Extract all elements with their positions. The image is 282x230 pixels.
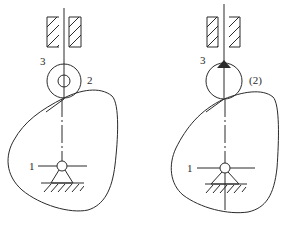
cam-edge-line [46, 99, 64, 112]
label-cam: 1 [187, 162, 193, 174]
label-follower: 3 [40, 55, 46, 67]
label-follower: 3 [200, 54, 206, 66]
guide-left [47, 15, 59, 53]
guide-right [229, 16, 240, 47]
label-roller: 2 [87, 74, 93, 86]
ground-hatch [206, 185, 246, 193]
guide-right [69, 15, 81, 47]
right-figure: 3 (2) 1 [171, 4, 278, 213]
label-roller: (2) [249, 74, 262, 87]
cam-pivot [220, 163, 230, 173]
cam-profile [8, 90, 118, 211]
guide-left [207, 16, 218, 52]
cam-mechanisms-diagram: 3 2 1 [0, 0, 282, 230]
pivot-support [51, 170, 73, 183]
cam-pivot [57, 161, 67, 171]
cam-edge-line [206, 99, 224, 112]
left-figure: 3 2 1 [8, 8, 118, 211]
ground-hatch [44, 184, 84, 192]
label-cam: 1 [29, 160, 35, 172]
